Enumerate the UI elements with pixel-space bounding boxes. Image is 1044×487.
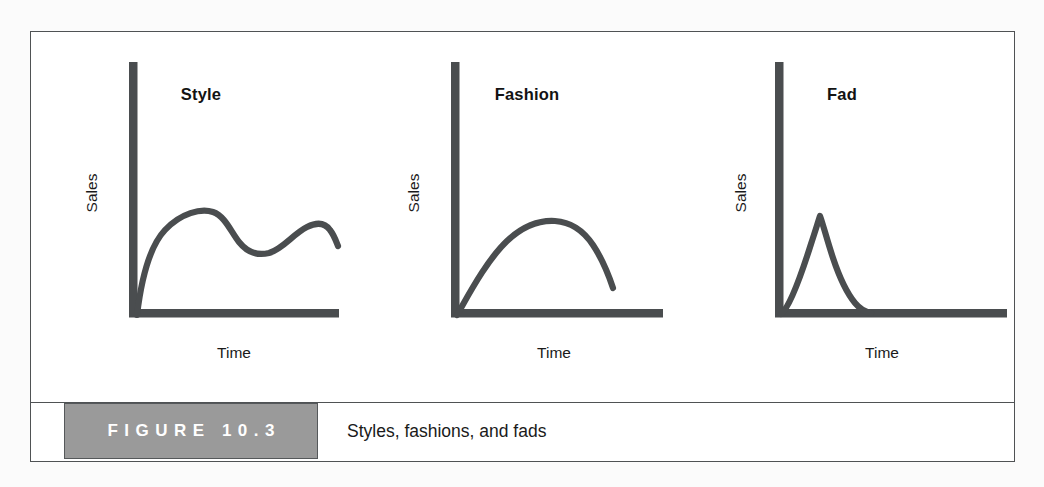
figure-frame: Style Sales Time Fashion Sales T	[30, 31, 1015, 462]
figure-caption-row: FIGURE 10.3 Styles, fashions, and fads	[31, 402, 1014, 461]
chart-plot-fad	[707, 32, 1017, 332]
x-axis-bar	[775, 309, 1007, 318]
x-axis-bar	[129, 309, 339, 318]
curve-fashion	[457, 221, 613, 315]
chart-panel-style: Style Sales Time	[61, 32, 381, 404]
charts-row: Style Sales Time Fashion Sales T	[31, 32, 1014, 404]
y-axis-bar	[775, 62, 784, 317]
x-axis-label-fad: Time	[827, 344, 937, 362]
curve-fad	[781, 216, 871, 314]
x-axis-label-fashion: Time	[499, 344, 609, 362]
x-axis-label-style: Time	[179, 344, 289, 362]
figure-number-label: FIGURE 10.3	[101, 421, 281, 441]
chart-panel-fashion: Fashion Sales Time	[383, 32, 703, 404]
chart-panel-fad: Fad Sales Time	[707, 32, 1017, 404]
chart-plot-fashion	[383, 32, 703, 332]
chart-plot-style	[61, 32, 381, 332]
y-axis-bar	[451, 62, 460, 317]
figure-number-box: FIGURE 10.3	[64, 403, 318, 459]
y-axis-bar	[129, 62, 138, 317]
curve-style	[137, 211, 338, 315]
figure-caption-text: Styles, fashions, and fads	[347, 403, 546, 459]
x-axis-bar	[451, 309, 663, 318]
